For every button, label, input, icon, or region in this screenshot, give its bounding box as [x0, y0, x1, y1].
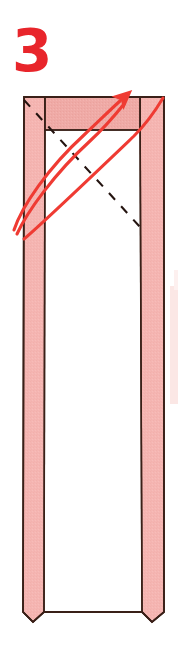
paper-left-flap: [23, 97, 45, 622]
paper-white-panel: [44, 130, 142, 612]
origami-step-figure: 3: [0, 0, 178, 646]
caption-sliver: [14, 634, 164, 646]
origami-diagram: [0, 0, 178, 646]
paper-right-flap: [140, 97, 164, 622]
step-number: 3: [12, 22, 51, 80]
ghost-paper-edge: [170, 270, 178, 404]
